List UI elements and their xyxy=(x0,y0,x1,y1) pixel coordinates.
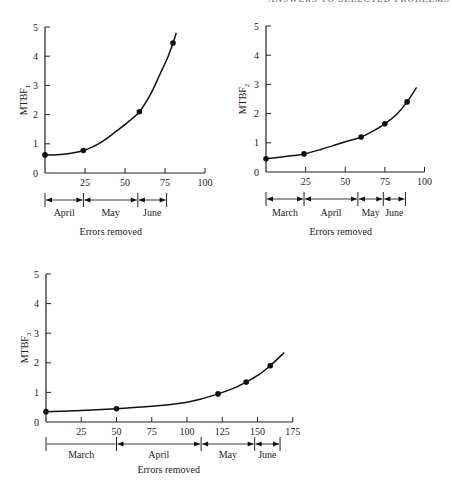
arrow-icon xyxy=(376,197,382,202)
y-tick-label: 1 xyxy=(34,387,39,398)
month-label: March xyxy=(272,207,298,218)
arrow-icon xyxy=(139,198,145,203)
arrow-icon xyxy=(384,197,390,202)
arrow-icon xyxy=(351,197,357,202)
x-tick-label: 50 xyxy=(340,176,350,187)
x-tick-label: 150 xyxy=(250,426,265,437)
y-tick-label: 2 xyxy=(254,108,259,119)
mtbf-curve xyxy=(45,33,176,155)
data-point xyxy=(42,152,48,158)
x-axis-label: Errors removed xyxy=(80,226,142,237)
x-tick-label: 25 xyxy=(301,176,311,187)
y-tick-label: 4 xyxy=(34,298,39,309)
y-tick-label: 1 xyxy=(33,138,38,149)
x-tick-label: 125 xyxy=(215,426,230,437)
data-point xyxy=(358,134,364,140)
arrow-icon xyxy=(131,198,137,203)
data-point xyxy=(170,40,176,46)
x-tick-label: 25 xyxy=(76,426,86,437)
arrow-icon xyxy=(256,442,262,447)
month-label: May xyxy=(361,207,379,218)
x-axis-label: Errors removed xyxy=(309,226,371,237)
x-tick-label: 100 xyxy=(417,176,432,187)
chart-3: 012345255075100125150175MTBF3MarchAprilM… xyxy=(19,269,300,476)
data-point xyxy=(43,409,49,415)
y-tick-label: 4 xyxy=(33,51,38,62)
y-tick-label: 2 xyxy=(33,109,38,120)
x-axis-label: Errors removed xyxy=(137,464,199,475)
month-label: March xyxy=(68,449,94,460)
arrow-icon xyxy=(248,442,254,447)
y-tick-label: 4 xyxy=(254,50,259,61)
arrow-icon xyxy=(359,197,365,202)
x-tick-label: 175 xyxy=(285,426,300,437)
arrow-icon xyxy=(297,197,303,202)
arrow-icon xyxy=(118,442,124,447)
arrow-icon xyxy=(267,197,273,202)
y-tick-label: 2 xyxy=(34,357,39,368)
arrow-icon xyxy=(273,442,279,447)
month-label: May xyxy=(219,449,237,460)
month-label: June xyxy=(385,207,404,218)
x-tick-label: 75 xyxy=(380,176,390,187)
arrow-icon xyxy=(202,442,208,447)
month-label: April xyxy=(54,207,75,218)
data-point xyxy=(301,151,307,157)
arrow-icon xyxy=(305,197,311,202)
data-point xyxy=(267,363,273,369)
y-tick-label: 5 xyxy=(34,269,39,280)
data-point xyxy=(114,406,120,412)
data-point xyxy=(215,391,221,397)
y-tick-label: 0 xyxy=(33,168,38,179)
x-tick-label: 50 xyxy=(120,177,130,188)
y-axis-label: MTBF3 xyxy=(19,332,33,363)
mtbf-charts: 012345255075100MTBF1AprilMayJuneErrors r… xyxy=(0,0,452,502)
x-tick-label: 100 xyxy=(180,426,195,437)
data-point xyxy=(404,99,410,105)
chart-2: 012345255075100MTBF2MarchAprilMayJuneErr… xyxy=(237,21,432,238)
x-tick-label: 75 xyxy=(160,177,170,188)
data-point xyxy=(243,379,249,385)
arrow-icon xyxy=(194,442,200,447)
arrow-icon xyxy=(76,198,82,203)
y-tick-label: 5 xyxy=(254,21,259,32)
month-label: June xyxy=(258,449,277,460)
data-point xyxy=(137,109,143,115)
x-tick-label: 100 xyxy=(198,177,213,188)
month-label: April xyxy=(148,449,169,460)
arrow-icon xyxy=(398,197,404,202)
month-label: April xyxy=(320,207,341,218)
chart-1: 012345255075100MTBF1AprilMayJuneErrors r… xyxy=(18,22,213,238)
data-point xyxy=(263,156,269,162)
y-axis-label: MTBF1 xyxy=(18,84,32,115)
x-tick-label: 75 xyxy=(147,426,157,437)
arrow-icon xyxy=(160,198,166,203)
x-tick-label: 25 xyxy=(80,177,90,188)
data-point xyxy=(81,148,87,154)
y-tick-label: 0 xyxy=(34,417,39,428)
y-tick-label: 3 xyxy=(33,80,38,91)
y-tick-label: 3 xyxy=(34,328,39,339)
month-label: June xyxy=(143,207,162,218)
arrow-icon xyxy=(46,198,52,203)
month-label: May xyxy=(101,207,119,218)
y-axis-label: MTBF2 xyxy=(237,83,251,114)
data-point xyxy=(382,121,388,127)
y-tick-label: 1 xyxy=(254,137,259,148)
mtbf-curve xyxy=(266,87,417,159)
x-tick-label: 50 xyxy=(112,426,122,437)
arrow-icon xyxy=(84,198,90,203)
y-tick-label: 5 xyxy=(33,22,38,33)
y-tick-label: 3 xyxy=(254,79,259,90)
y-tick-label: 0 xyxy=(254,167,259,178)
